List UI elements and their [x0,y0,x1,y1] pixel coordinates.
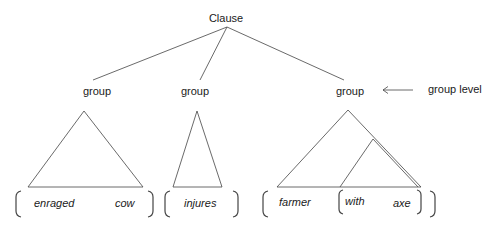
word-enraged: enraged [34,197,75,209]
root-node-clause: Clause [209,12,243,24]
group-node-2: group [181,85,209,97]
branch-to-group-1 [93,27,227,80]
branch-to-group-3 [227,27,344,80]
triangle-group-1 [28,111,143,187]
triangle-subgroup [340,139,418,187]
group-node-3: group [336,85,364,97]
group-level-label: group level [428,83,482,95]
word-farmer: farmer [279,196,312,208]
triangle-group-3 [277,110,421,187]
group-node-1: group [83,85,111,97]
word-axe: axe [393,197,411,209]
word-with: with [345,195,365,207]
word-cow: cow [115,197,136,209]
root-branches [93,27,344,80]
clause-tree-diagram: Clause group group group group level enr… [0,0,498,229]
word-injures: injures [184,197,217,209]
branch-to-group-2 [200,27,227,80]
arrow-left-icon [383,87,413,94]
triangle-group-2 [173,111,222,187]
